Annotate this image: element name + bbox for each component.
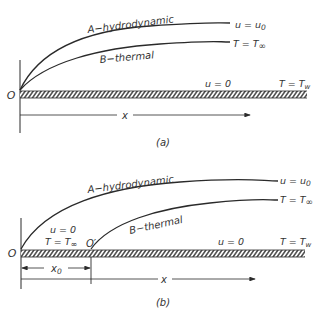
panel-a: O A−hydrodynamic B−thermal u = u0 T = T∞… bbox=[7, 13, 311, 148]
flat-plate bbox=[20, 91, 307, 98]
free-stream-velocity-label: u = u0 bbox=[235, 19, 266, 32]
x-axis-label: x bbox=[121, 110, 128, 121]
unheated-temp-label: T = T∞ bbox=[45, 236, 77, 249]
wall-velocity-label: u = 0 bbox=[218, 236, 244, 247]
curve-a-label: A−hydrodynamic bbox=[86, 13, 175, 35]
x-axis-label: x bbox=[160, 274, 167, 285]
curve-b-label: B−thermal bbox=[128, 214, 184, 236]
free-stream-velocity-label: u = u0 bbox=[280, 175, 311, 188]
origin-label: O bbox=[7, 89, 16, 102]
origin-label: O bbox=[8, 247, 17, 260]
curve-b-label: B−thermal bbox=[99, 49, 154, 65]
curve-b-thermal bbox=[20, 42, 230, 91]
flat-plate bbox=[21, 250, 305, 257]
curve-b-thermal bbox=[91, 200, 278, 249]
caption-b: (b) bbox=[156, 297, 170, 308]
panel-b: O O′ A−hydrodynamic B−thermal u = u0 T =… bbox=[8, 173, 313, 308]
boundary-layer-diagram: O A−hydrodynamic B−thermal u = u0 T = T∞… bbox=[0, 0, 327, 320]
unheated-velocity-label: u = 0 bbox=[50, 224, 76, 235]
free-stream-temp-label: T = T∞ bbox=[233, 38, 266, 51]
caption-a: (a) bbox=[156, 137, 170, 148]
wall-temp-label: T = Tw bbox=[280, 236, 312, 249]
curve-a-label: A−hydrodynamic bbox=[86, 173, 175, 195]
origin-prime-label: O′ bbox=[86, 238, 97, 249]
free-stream-temp-label: T = T∞ bbox=[280, 194, 313, 207]
x0-label: x0 bbox=[50, 263, 62, 276]
wall-velocity-label: u = 0 bbox=[205, 78, 231, 89]
wall-temp-label: T = Tw bbox=[279, 78, 311, 91]
